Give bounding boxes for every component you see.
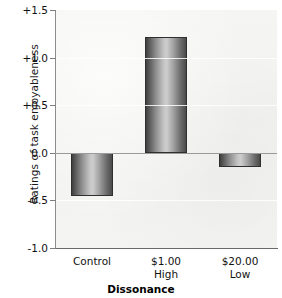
y-axis-tick-labels: +1.5+1.0+0.50.0-0.5-1.0 xyxy=(0,0,48,298)
gridline xyxy=(56,200,277,201)
chart-figure: Ratings of task enjoyableness +1.5+1.0+0… xyxy=(0,0,282,298)
x-axis-line xyxy=(55,248,278,249)
category-label-line2: Low xyxy=(185,268,282,281)
category-label-line1: Control xyxy=(73,255,111,267)
y-axis-line xyxy=(55,10,56,249)
gridline xyxy=(56,58,277,59)
y-axis-tick xyxy=(50,248,56,249)
bar xyxy=(219,153,261,167)
x-axis-title: Dissonance xyxy=(0,283,282,295)
category-label-line1: $20.00 xyxy=(222,255,259,267)
bar xyxy=(145,37,187,153)
bar xyxy=(71,153,113,196)
y-axis-tick-label: +1.0 xyxy=(4,52,48,64)
y-axis-tick-label: -0.5 xyxy=(4,194,48,206)
x-axis-category-label: $20.00Low xyxy=(185,255,282,281)
zero-baseline xyxy=(55,153,277,154)
y-axis-tick-label: +0.5 xyxy=(4,99,48,111)
y-axis-tick-label: 0.0 xyxy=(4,147,48,159)
y-axis-tick xyxy=(50,10,56,11)
y-axis-tick-label: +1.5 xyxy=(4,4,48,16)
category-label-line1: $1.00 xyxy=(151,255,181,267)
gridline xyxy=(56,105,277,106)
y-axis-tick-label: -1.0 xyxy=(4,242,48,254)
